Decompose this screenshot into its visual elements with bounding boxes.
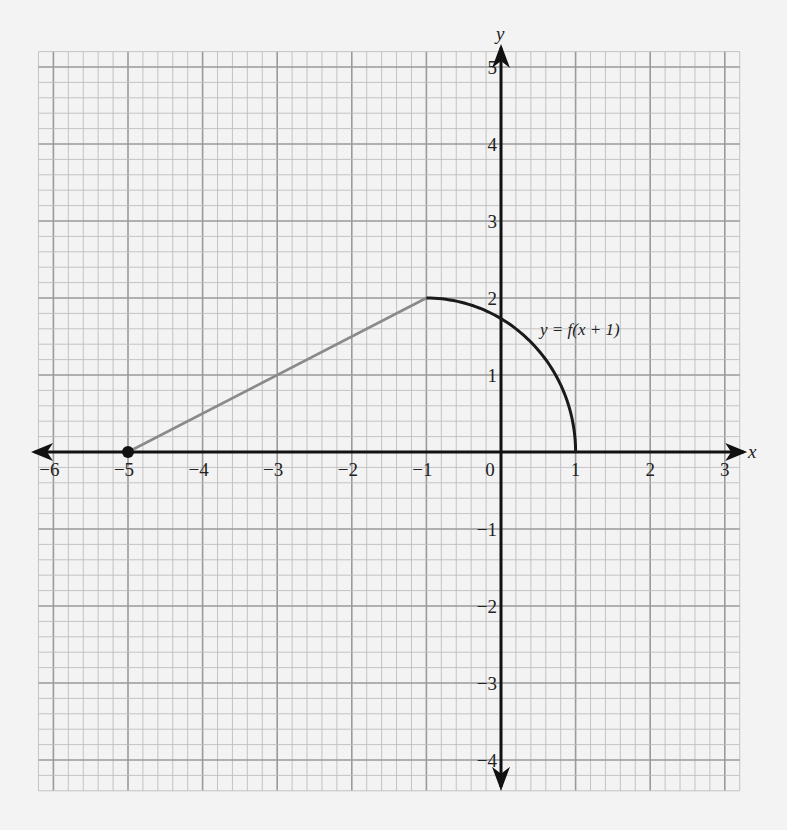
y-tick-label: −4 [477, 750, 498, 771]
paper-background [0, 0, 787, 830]
y-tick-label: −1 [477, 519, 497, 540]
x-tick-label: −2 [338, 459, 358, 480]
x-tick-label: −3 [263, 459, 283, 480]
x-tick-label: −4 [188, 459, 209, 480]
y-tick-label: 1 [488, 365, 498, 386]
x-tick-label: 2 [645, 459, 655, 480]
y-tick-label: 2 [488, 288, 498, 309]
x-tick-label: −5 [114, 459, 134, 480]
closed-dot-marker [122, 446, 134, 458]
y-tick-label: 4 [488, 134, 498, 155]
y-tick-label: −3 [477, 673, 497, 694]
x-tick-label: 1 [571, 459, 581, 480]
curve-label: y = f(x + 1) [538, 320, 620, 339]
x-tick-label: 3 [720, 459, 730, 480]
origin-label: 0 [485, 459, 495, 480]
coordinate-plane: −6−5−4−3−2−10123−4−3−2−112345 x y y = f(… [0, 0, 787, 830]
y-tick-label: −2 [477, 596, 497, 617]
graph-paper-figure: −6−5−4−3−2−10123−4−3−2−112345 x y y = f(… [0, 0, 787, 830]
y-axis-label: y [494, 23, 505, 44]
y-tick-label: 5 [488, 57, 498, 78]
x-tick-label: −1 [412, 459, 432, 480]
x-axis-label: x [747, 441, 757, 462]
x-tick-label: −6 [39, 459, 59, 480]
y-tick-label: 3 [488, 211, 498, 232]
